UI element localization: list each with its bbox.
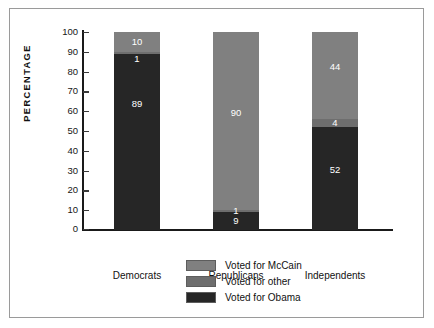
- legend-label: Voted for other: [225, 277, 291, 287]
- y-tick-label: 70: [52, 86, 78, 96]
- chart-figure: PERCENTAGE 100 90 80 70 60 50 40 30 20 1…: [0, 0, 434, 328]
- y-tick-label: 10: [52, 205, 78, 215]
- bar-value-label: 1: [213, 206, 259, 216]
- y-tick-label: 90: [52, 47, 78, 57]
- bar-segment-other[interactable]: 1: [213, 210, 259, 212]
- legend-swatch-obama: [186, 292, 216, 303]
- bar-value-label: 1: [114, 54, 160, 64]
- bar-segment-obama[interactable]: 52: [312, 127, 358, 230]
- bar-value-label: 10: [132, 37, 143, 47]
- bar-value-label: 52: [312, 165, 358, 175]
- legend-item-other[interactable]: Voted for other: [186, 275, 302, 288]
- bar-stack[interactable]: 44 4 52: [312, 32, 358, 230]
- chart-legend: Voted for McCain Voted for other Voted f…: [186, 259, 302, 304]
- legend-label: Voted for McCain: [225, 261, 302, 271]
- y-tick-label: 60: [52, 106, 78, 116]
- y-tick-label: 0: [52, 224, 78, 234]
- bar-segment-mccain[interactable]: 10: [114, 32, 160, 52]
- bar-segment-other[interactable]: 4: [312, 119, 358, 127]
- plot-area: 10 1 89 90 1 9: [82, 32, 392, 230]
- bar-stack[interactable]: 10 1 89: [114, 32, 160, 230]
- bar-value-label: 44: [312, 62, 358, 72]
- bar-value-label: 4: [312, 118, 358, 128]
- bar-value-label: 9: [233, 216, 238, 226]
- bar-segment-mccain[interactable]: 44: [312, 32, 358, 119]
- y-axis-title: PERCENTAGE: [22, 23, 32, 143]
- bar-segment-mccain[interactable]: 90: [213, 32, 259, 210]
- y-tick-label: 20: [52, 185, 78, 195]
- y-tick-label: 100: [52, 27, 78, 37]
- legend-swatch-mccain: [186, 260, 216, 271]
- y-tick-label: 50: [52, 126, 78, 136]
- legend-item-mccain[interactable]: Voted for McCain: [186, 259, 302, 272]
- y-tick-label: 30: [52, 166, 78, 176]
- bar-value-label: 89: [114, 99, 160, 109]
- bar-stack[interactable]: 90 1 9: [213, 32, 259, 230]
- legend-label: Voted for Obama: [225, 293, 301, 303]
- bar-value-label: 90: [213, 108, 259, 118]
- legend-swatch-other: [186, 276, 216, 287]
- y-tick-label: 40: [52, 146, 78, 156]
- y-tick-label: 80: [52, 67, 78, 77]
- bar-segment-obama[interactable]: 89: [114, 54, 160, 230]
- legend-item-obama[interactable]: Voted for Obama: [186, 291, 302, 304]
